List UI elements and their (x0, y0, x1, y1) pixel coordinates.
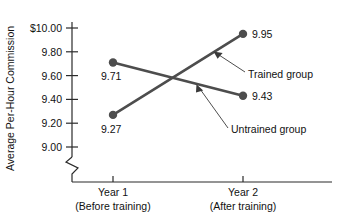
point-value-label-untrained-year-2: 9.43 (252, 90, 273, 102)
chart-container: Average Per-Hour Commission $10.00 9.80 … (0, 0, 340, 219)
x-category-label-year-1: Year 1 (98, 186, 128, 198)
y-tick-label-9-00: 9.00 (42, 141, 63, 153)
y-tick-label-9-40: 9.40 (42, 93, 63, 105)
leader-line-trained-group (219, 55, 245, 72)
x-category-sublabel-after-training: (After training) (210, 200, 277, 212)
data-point-trained-year-2 (239, 30, 247, 38)
y-axis-title: Average Per-Hour Commission (4, 26, 16, 171)
y-tick-label-9-60: 9.60 (42, 70, 63, 82)
y-tick-label-9-20: 9.20 (42, 117, 63, 129)
series-line-trained-group (113, 34, 243, 115)
line-chart: Average Per-Hour Commission $10.00 9.80 … (0, 0, 340, 219)
series-line-untrained-group (113, 63, 243, 96)
data-point-trained-year-1 (109, 111, 117, 119)
point-value-label-untrained-year-1: 9.71 (101, 70, 122, 82)
point-value-label-trained-year-1: 9.27 (101, 123, 122, 135)
y-axis-break-icon (66, 157, 78, 182)
series-annotation-untrained-group: Untrained group (231, 123, 306, 135)
leader-arrow-trained-group (214, 51, 223, 58)
y-tick-label-10-00: $10.00 (30, 22, 62, 34)
data-point-untrained-year-1 (109, 58, 117, 66)
x-category-sublabel-before-training: (Before training) (75, 200, 150, 212)
y-tick-label-9-80: 9.80 (42, 46, 63, 58)
point-value-label-trained-year-2: 9.95 (252, 28, 273, 40)
series-annotation-trained-group: Trained group (248, 68, 313, 80)
x-category-label-year-2: Year 2 (228, 186, 258, 198)
leader-line-untrained-group (200, 89, 228, 128)
data-point-untrained-year-2 (239, 92, 247, 100)
